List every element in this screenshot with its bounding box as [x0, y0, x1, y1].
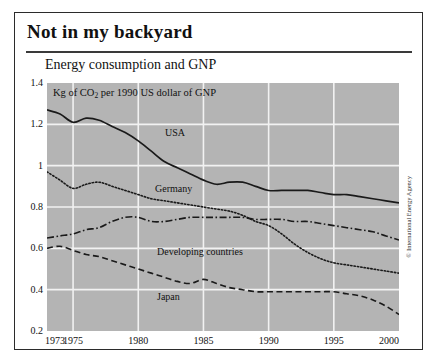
y-tick-label: 0.4: [31, 284, 44, 295]
y-axis-tick-labels: 1.41.210.80.60.40.2: [15, 83, 43, 331]
source-credit: © International Energy Agency: [405, 176, 412, 258]
series-label-developing-countries: Developing countries: [157, 246, 243, 257]
x-tick-label: 1985: [193, 335, 213, 346]
y-tick-label: 1: [38, 160, 43, 171]
series-label-germany: Germany: [155, 183, 192, 194]
series-label-usa: USA: [165, 127, 185, 138]
x-tick-label: 1975: [63, 335, 83, 346]
co2-subscript: 2: [94, 91, 98, 100]
x-tick-label: 1995: [324, 335, 344, 346]
series-line-developing-countries: [47, 217, 399, 240]
x-axis-tick-labels: 1973197519801985199019952000: [47, 335, 399, 349]
unit-caption: Kg of CO2 per 1990 US dollar of GNP: [53, 87, 216, 98]
figure-frame: Not in my backyard Energy consumption an…: [14, 12, 423, 350]
x-tick-label: 1980: [128, 335, 148, 346]
x-tick-label: 2000: [379, 335, 399, 346]
y-tick-label: 1.2: [31, 118, 44, 129]
y-tick-label: 1.4: [31, 77, 44, 88]
chart-subtitle: Energy consumption and GNP: [45, 57, 216, 73]
y-tick-label: 0.2: [31, 325, 44, 336]
series-line-germany: [47, 172, 399, 273]
title-divider: [26, 51, 412, 53]
y-tick-label: 0.6: [31, 242, 44, 253]
x-tick-label: 1990: [259, 335, 279, 346]
chart-canvas: [47, 83, 399, 331]
series-label-japan: Japan: [157, 291, 180, 302]
plot-region: Kg of CO2 per 1990 US dollar of GNP USA …: [47, 83, 399, 331]
y-tick-label: 0.8: [31, 201, 44, 212]
x-tick-label: 1973: [45, 335, 65, 346]
page-title: Not in my backyard: [27, 21, 193, 43]
